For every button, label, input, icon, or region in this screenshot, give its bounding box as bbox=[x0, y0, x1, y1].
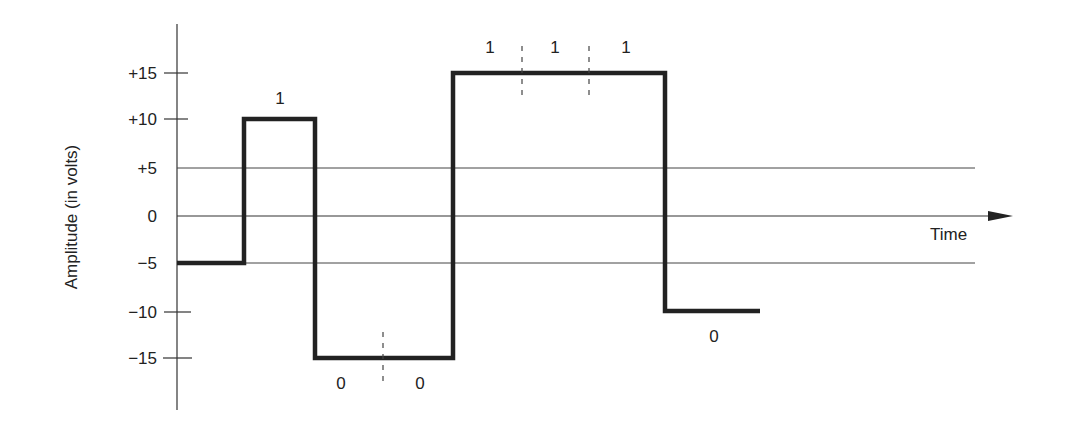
svg-text:−5: −5 bbox=[138, 254, 157, 273]
svg-text:−10: −10 bbox=[128, 303, 157, 322]
signal-diagram: Amplitude (in volts) Time +15 +10 +5 0 −… bbox=[0, 0, 1065, 431]
svg-text:0: 0 bbox=[148, 207, 157, 226]
svg-text:0: 0 bbox=[415, 374, 424, 393]
svg-text:1: 1 bbox=[275, 89, 284, 108]
x-axis-label: Time bbox=[930, 225, 967, 244]
svg-text:−15: −15 bbox=[128, 349, 157, 368]
svg-text:+15: +15 bbox=[128, 64, 157, 83]
svg-text:1: 1 bbox=[621, 38, 630, 57]
y-axis-label: Amplitude (in volts) bbox=[62, 145, 81, 290]
svg-text:+10: +10 bbox=[128, 110, 157, 129]
svg-text:0: 0 bbox=[709, 327, 718, 346]
bit-separators bbox=[383, 46, 589, 384]
y-tick-labels: +15 +10 +5 0 −5 −10 −15 bbox=[128, 64, 157, 368]
svg-text:+5: +5 bbox=[138, 159, 157, 178]
svg-text:0: 0 bbox=[336, 374, 345, 393]
svg-text:1: 1 bbox=[550, 38, 559, 57]
svg-text:1: 1 bbox=[485, 38, 494, 57]
time-axis-arrow-icon bbox=[988, 211, 1013, 221]
